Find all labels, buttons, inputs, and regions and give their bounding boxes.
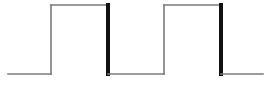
signal-waveform [8, 5, 263, 74]
square-wave-diagram [0, 0, 264, 97]
